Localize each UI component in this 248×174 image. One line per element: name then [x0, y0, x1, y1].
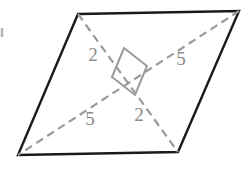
label-2-upper: 2: [88, 44, 98, 65]
figure-canvas: 2 5 5 2: [0, 0, 248, 174]
label-5-right: 5: [176, 48, 186, 69]
label-2-lower: 2: [134, 104, 144, 125]
label-5-lower: 5: [85, 108, 95, 129]
parallelogram-diagram: 2 5 5 2: [0, 0, 248, 174]
